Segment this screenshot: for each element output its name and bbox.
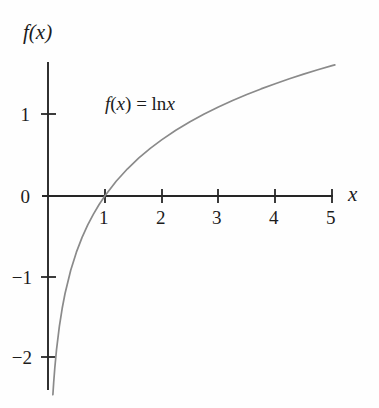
x-tick-label-1: 1 (99, 208, 109, 227)
plot-area (0, 0, 379, 408)
x-tick-label-5: 5 (326, 208, 336, 227)
x-tick-label-2: 2 (156, 208, 166, 227)
equation-lhs-var: x (117, 93, 125, 114)
equation-annotation: f(x) = lnx (105, 94, 175, 113)
equation-paren-close: ) (125, 93, 131, 114)
x-tick-label-3: 3 (212, 208, 222, 227)
x-tick-label-4: 4 (269, 208, 279, 227)
x-axis-label: x (348, 184, 357, 205)
y-axis-label: f(x) (23, 22, 52, 43)
equation-equals: = (136, 93, 147, 114)
y-tick-label-neg1: −1 (0, 268, 32, 287)
y-tick-label-neg2: −2 (0, 348, 32, 367)
equation-arg: x (166, 93, 174, 114)
y-tick-label-0: 0 (0, 187, 30, 206)
y-tick-label-1: 1 (0, 105, 30, 124)
equation-ln: ln (152, 93, 167, 114)
figure-canvas: f(x) x f(x) = lnx 1 2 3 4 5 1 0 −1 −2 (0, 0, 379, 408)
ln-curve (53, 65, 335, 395)
